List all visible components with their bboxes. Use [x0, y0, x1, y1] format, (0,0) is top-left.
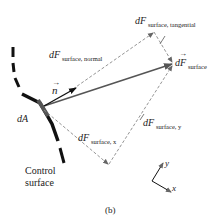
svg-text:→: → — [52, 78, 60, 87]
svg-text:surface, normal: surface, normal — [62, 55, 103, 62]
coordinate-axes: y x — [152, 158, 176, 193]
label-force-normal: dF surface, normal — [49, 49, 103, 62]
svg-text:dF: dF — [143, 117, 155, 128]
label-force-surface: dF → surface — [175, 49, 207, 70]
axis-y-arrow — [152, 163, 163, 181]
axis-x-arrow — [152, 181, 171, 192]
label-normal-vector: n → — [52, 78, 60, 96]
svg-text:dF: dF — [78, 132, 90, 143]
label-control-surface-1: Control — [25, 165, 56, 176]
svg-text:dF: dF — [49, 49, 61, 60]
label-force-tangential: dF surface, tangential — [135, 15, 196, 28]
svg-text:surface, tangential: surface, tangential — [148, 21, 196, 28]
label-control-surface-2: surface — [25, 177, 54, 188]
x-component-dashed — [44, 110, 108, 164]
svg-text:→: → — [179, 49, 187, 58]
y-component-dashed — [109, 66, 172, 164]
svg-text:dF: dF — [175, 57, 187, 68]
axis-y-label: y — [164, 158, 169, 168]
svg-text:surface, y: surface, y — [156, 123, 182, 130]
panel-label: (b) — [105, 205, 116, 215]
svg-text:surface: surface — [188, 63, 207, 70]
axis-x-label: x — [171, 183, 176, 193]
tangential-leader-line — [160, 36, 165, 44]
surface-force-vector — [44, 64, 172, 106]
svg-text:surface, x: surface, x — [91, 138, 117, 145]
force-decomposition-diagram: n → dA Control surface dF surface, norma… — [0, 0, 222, 224]
label-area: dA — [17, 113, 29, 124]
control-surface-line — [13, 47, 64, 163]
label-force-y: dF surface, y — [143, 117, 182, 130]
svg-text:dF: dF — [135, 15, 147, 26]
tangential-component-dashed — [154, 32, 172, 62]
